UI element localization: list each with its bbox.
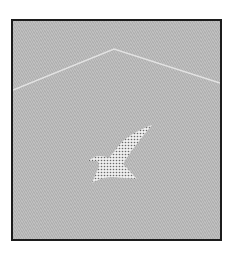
peak-line (13, 49, 220, 90)
illustration-panel (11, 19, 222, 241)
bird-icon (88, 125, 152, 183)
illustration-canvas (13, 21, 220, 239)
